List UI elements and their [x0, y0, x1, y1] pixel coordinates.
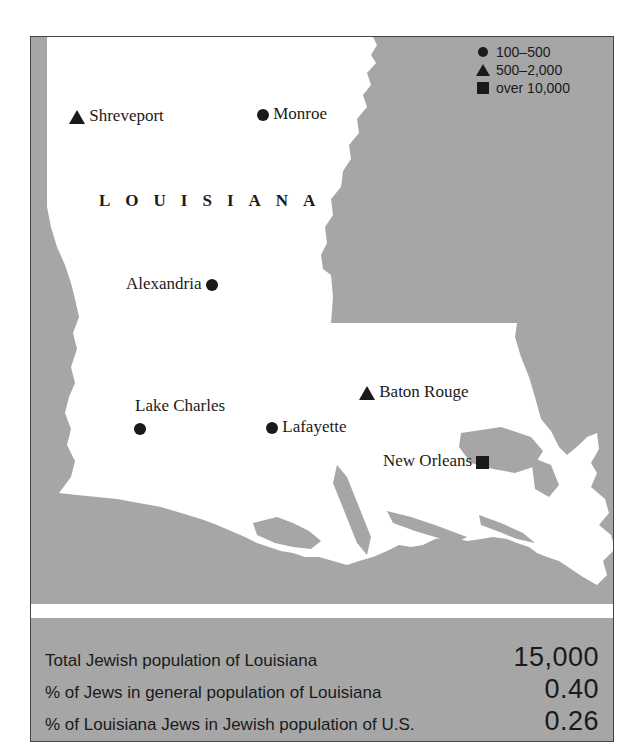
legend-label: 100–500 — [496, 44, 551, 60]
stat-label: % of Louisiana Jews in Jewish population… — [45, 715, 414, 735]
map-area: 100–500 500–2,000 over 10,000 LOUISIANA … — [31, 37, 613, 602]
city-lafayette: Lafayette — [266, 418, 346, 435]
stat-label: Total Jewish population of Louisiana — [45, 651, 317, 671]
stat-value: 0.26 — [544, 706, 599, 737]
population-stats: Total Jewish population of Louisiana 15,… — [31, 618, 613, 741]
city-baton-rouge: Baton Rouge — [359, 383, 469, 400]
stat-row-us-pct: % of Louisiana Jews in Jewish population… — [45, 706, 599, 737]
stat-row-general-pct: % of Jews in general population of Louis… — [45, 674, 599, 705]
triangle-marker-icon — [359, 386, 375, 400]
triangle-marker-icon — [69, 110, 85, 124]
city-label: New Orleans — [383, 451, 472, 470]
city-new-orleans: New Orleans — [383, 452, 489, 469]
stat-value: 0.40 — [544, 674, 599, 705]
square-marker-icon — [476, 456, 489, 469]
legend-label: over 10,000 — [496, 80, 570, 96]
circle-marker-icon — [134, 423, 146, 435]
circle-marker-icon — [257, 109, 269, 121]
stat-row-total: Total Jewish population of Louisiana 15,… — [45, 642, 599, 673]
stat-label: % of Jews in general population of Louis… — [45, 683, 381, 703]
circle-marker-icon — [266, 422, 278, 434]
stat-value: 15,000 — [513, 642, 599, 673]
city-shreveport: Shreveport — [69, 107, 164, 124]
city-label: Alexandria — [126, 274, 202, 293]
square-marker-icon — [477, 82, 489, 94]
city-monroe: Monroe — [257, 105, 327, 122]
city-lake-charles-label: Lake Charles — [135, 397, 225, 414]
city-label: Lafayette — [282, 417, 346, 436]
circle-marker-icon — [206, 279, 218, 291]
state-name-label: LOUISIANA — [99, 191, 330, 211]
circle-marker-icon — [478, 47, 488, 57]
legend-item-500-2000: 500–2,000 — [474, 61, 570, 79]
legend-item-100-500: 100–500 — [474, 43, 570, 61]
legend-item-over-10000: over 10,000 — [474, 79, 570, 97]
map-figure: 100–500 500–2,000 over 10,000 LOUISIANA … — [30, 36, 614, 742]
legend-label: 500–2,000 — [496, 62, 562, 78]
divider-band — [31, 604, 613, 618]
city-alexandria: Alexandria — [126, 275, 218, 292]
map-legend: 100–500 500–2,000 over 10,000 — [474, 43, 570, 97]
triangle-marker-icon — [476, 64, 490, 76]
city-label: Shreveport — [89, 106, 164, 125]
city-label: Monroe — [273, 104, 327, 123]
city-label: Baton Rouge — [379, 382, 468, 401]
city-label: Lake Charles — [135, 396, 225, 415]
city-lake-charles-marker — [134, 419, 146, 436]
